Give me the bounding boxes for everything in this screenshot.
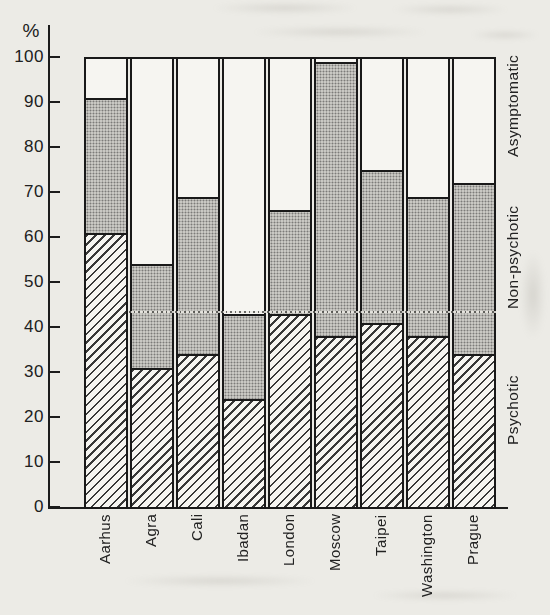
- segment-non-psychotic: [362, 170, 402, 323]
- y-tick-mark: [50, 236, 60, 238]
- segment-non-psychotic: [86, 98, 126, 233]
- y-tick-mark: [50, 146, 60, 148]
- segment-non-psychotic: [132, 264, 172, 368]
- y-tick-mark: [50, 506, 60, 508]
- y-tick-mark: [50, 371, 60, 373]
- segment-asymptomatic: [454, 59, 494, 183]
- scan-artifact: [250, 26, 430, 38]
- y-tick-label: 10: [0, 452, 44, 472]
- y-tick-label: 80: [0, 137, 44, 157]
- segment-psychotic: [408, 336, 448, 507]
- y-tick-label: 40: [0, 317, 44, 337]
- segment-asymptomatic: [86, 59, 126, 98]
- bar-moscow: [314, 57, 358, 509]
- y-axis-title: %: [16, 20, 46, 42]
- segment-non-psychotic: [224, 314, 264, 400]
- bar-prague: [452, 57, 496, 509]
- bar-taipei: [360, 57, 404, 509]
- y-tick-mark: [50, 191, 60, 193]
- segment-asymptomatic: [270, 59, 310, 210]
- x-label-taipei: Taipei: [372, 514, 392, 612]
- y-tick-label: 50: [0, 272, 44, 292]
- y-tick-label: 90: [0, 92, 44, 112]
- segment-asymptomatic: [224, 59, 264, 314]
- y-tick-mark: [50, 281, 60, 283]
- segment-asymptomatic: [178, 59, 218, 197]
- segment-non-psychotic: [316, 62, 356, 337]
- x-label-moscow: Moscow: [326, 514, 346, 612]
- legend-non-psychotic: Non-psychotic: [504, 183, 528, 331]
- segment-psychotic: [454, 354, 494, 507]
- x-label-prague: Prague: [464, 514, 484, 612]
- legend-psychotic: Psychotic: [504, 348, 528, 473]
- scanned-page: % 0102030405060708090100 AarhusAgraCaliI…: [0, 0, 550, 615]
- segment-psychotic: [86, 233, 126, 508]
- segment-psychotic: [178, 354, 218, 507]
- scan-artifact: [370, 590, 520, 601]
- legend-asymptomatic: Asymptomatic: [504, 40, 528, 172]
- scan-artifact: [210, 2, 360, 14]
- segment-asymptomatic: [362, 59, 402, 170]
- dotted-reference-line: [129, 311, 496, 313]
- x-label-washington: Washington: [418, 514, 438, 612]
- segment-psychotic: [270, 314, 310, 508]
- y-tick-mark: [50, 461, 60, 463]
- hundred-percent-line: [84, 57, 496, 59]
- segment-psychotic: [224, 399, 264, 507]
- bar-ibadan: [222, 57, 266, 509]
- y-tick-label: 70: [0, 182, 44, 202]
- bar-agra: [130, 57, 174, 509]
- x-label-cali: Cali: [188, 514, 208, 612]
- segment-non-psychotic: [454, 183, 494, 354]
- x-label-agra: Agra: [142, 514, 162, 612]
- segment-non-psychotic: [408, 197, 448, 337]
- y-tick-label: 0: [0, 497, 44, 517]
- x-label-ibadan: Ibadan: [234, 514, 254, 612]
- y-tick-mark: [50, 101, 60, 103]
- bar-washington: [406, 57, 450, 509]
- bar-london: [268, 57, 312, 509]
- y-tick-mark: [50, 416, 60, 418]
- y-tick-label: 20: [0, 407, 44, 427]
- bar-cali: [176, 57, 220, 509]
- y-tick-mark: [50, 56, 60, 58]
- x-label-aarhus: Aarhus: [96, 514, 116, 612]
- y-tick-mark: [50, 326, 60, 328]
- y-axis-line: [48, 25, 50, 509]
- segment-psychotic: [132, 368, 172, 508]
- segment-asymptomatic: [408, 59, 448, 197]
- bar-aarhus: [84, 57, 128, 509]
- segment-non-psychotic: [178, 197, 218, 355]
- scan-artifact: [390, 4, 510, 15]
- x-label-london: London: [280, 514, 300, 612]
- segment-psychotic: [362, 323, 402, 508]
- y-tick-label: 30: [0, 362, 44, 382]
- segment-psychotic: [316, 336, 356, 507]
- segment-non-psychotic: [270, 210, 310, 314]
- y-tick-label: 100: [0, 47, 44, 67]
- y-tick-label: 60: [0, 227, 44, 247]
- scan-artifact: [470, 30, 540, 40]
- segment-asymptomatic: [132, 59, 172, 264]
